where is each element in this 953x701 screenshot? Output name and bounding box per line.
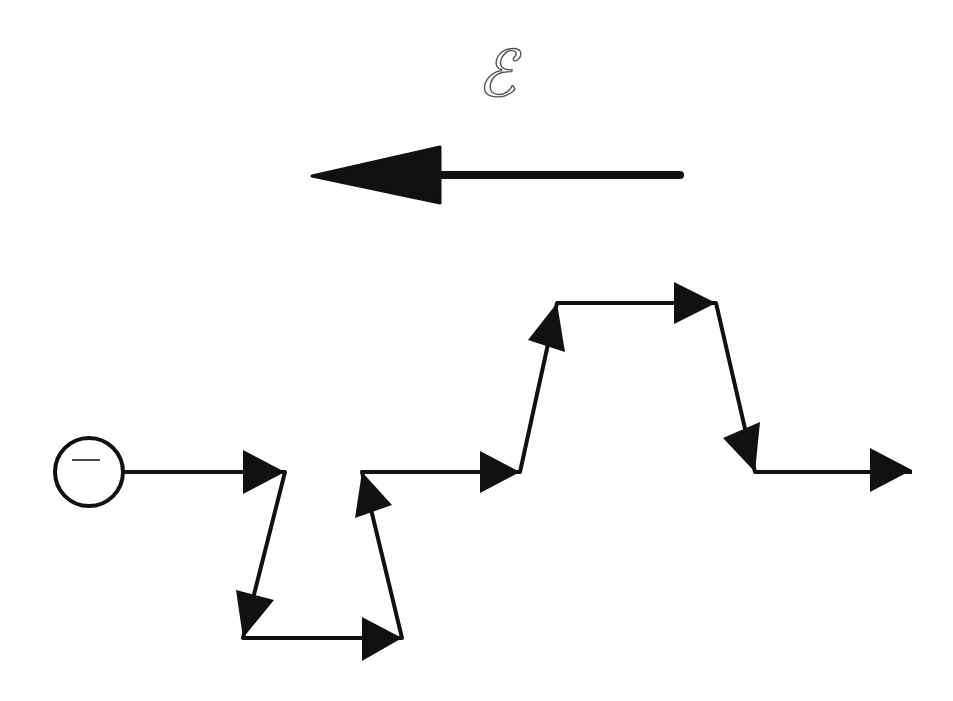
arrowhead-2 <box>236 590 274 638</box>
arrowhead-3 <box>362 617 402 661</box>
arrowhead-8 <box>723 422 760 472</box>
field-label: ℰ <box>477 37 522 111</box>
negative-charge <box>55 438 123 506</box>
arrowhead-5 <box>480 451 520 493</box>
arrowhead-9 <box>870 448 912 492</box>
arrowhead-1 <box>243 450 285 494</box>
diagram-canvas: ℰ <box>0 0 953 701</box>
electric-field-arrow <box>312 147 680 203</box>
arrowhead-7 <box>674 282 716 324</box>
charge-path <box>123 303 912 638</box>
arrowhead-6 <box>528 303 565 352</box>
arrowhead-4 <box>355 472 392 518</box>
